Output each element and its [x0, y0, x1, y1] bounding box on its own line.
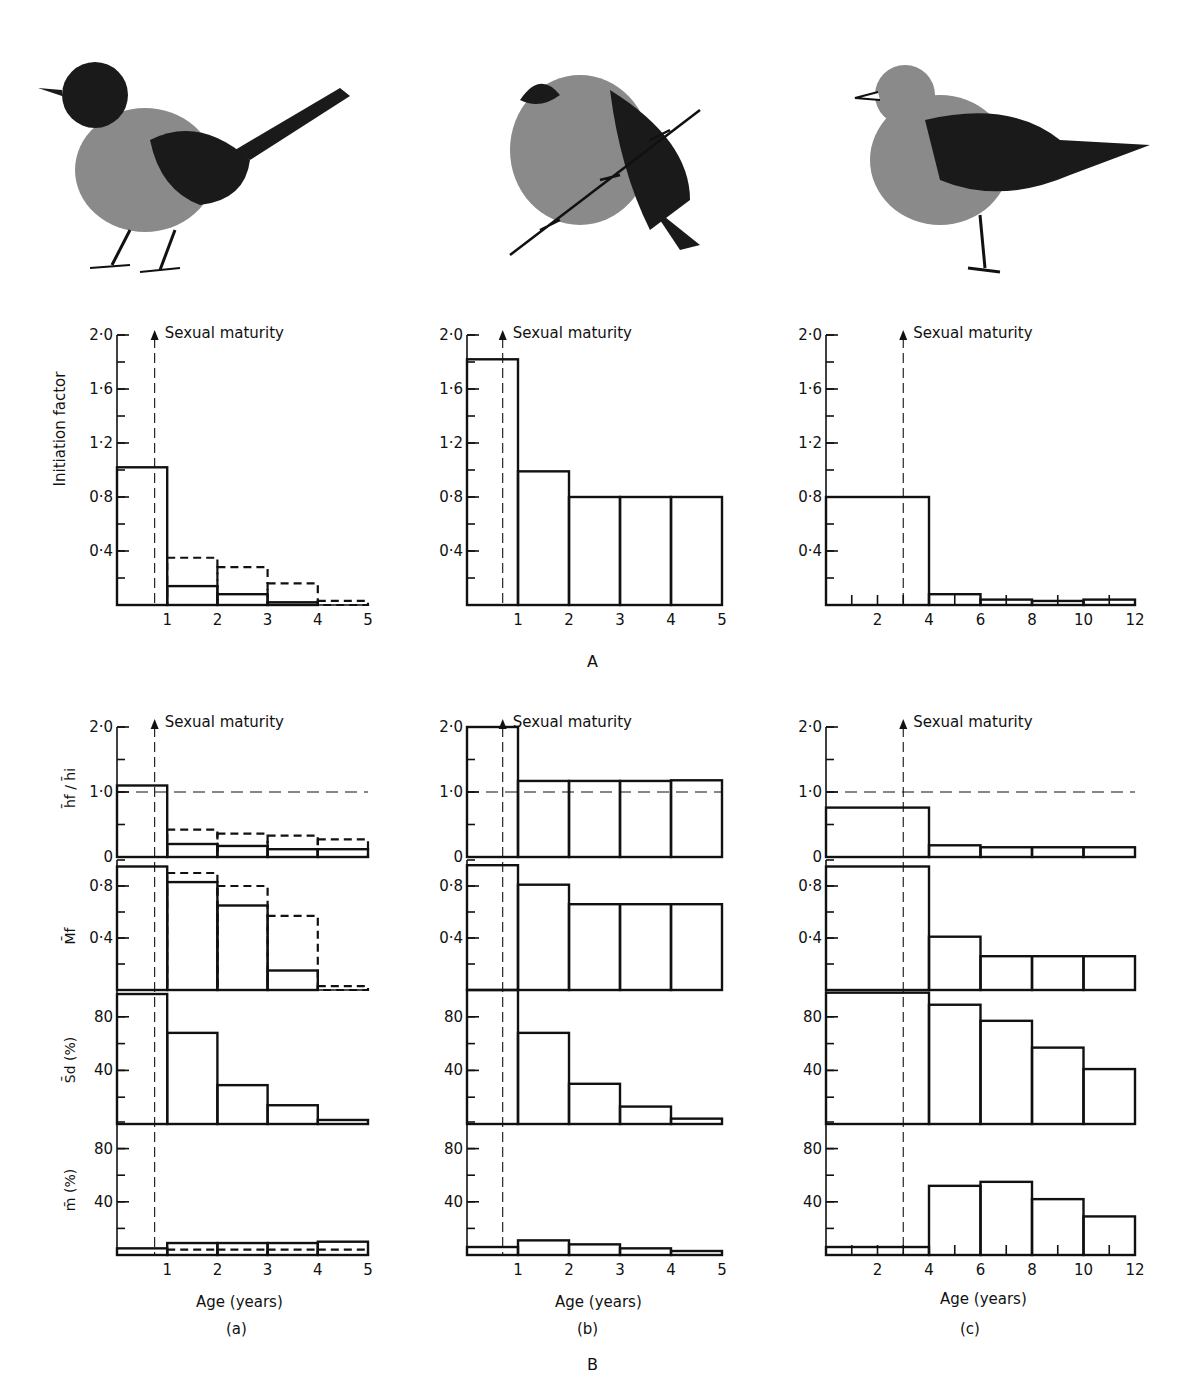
- x-tick-label: 1: [513, 611, 523, 629]
- y-tick-label: 40: [803, 1061, 822, 1079]
- y-tick-label: 0·4: [89, 929, 113, 947]
- x-axis-title-a: Age (years): [196, 1293, 283, 1311]
- histogram-bar: [117, 994, 167, 1124]
- y-tick-label: 0·4: [439, 542, 463, 560]
- x-tick-label: 3: [615, 1261, 625, 1279]
- y-tick-label: 1·0: [89, 783, 113, 801]
- bird-illustration-a: [38, 62, 350, 272]
- histogram-bar: [1032, 847, 1084, 857]
- histogram-bar: [826, 497, 929, 605]
- y-tick-label: 0·8: [89, 877, 113, 895]
- histogram-bar: [318, 849, 368, 857]
- x-axis-title-c: Age (years): [940, 1290, 1027, 1308]
- y-axis-title-h: h̄f / h̄i: [62, 748, 78, 828]
- y-axis-title-initiation: Initiation factor: [51, 359, 69, 499]
- sexual-maturity-label: Sexual maturity: [913, 713, 1032, 731]
- y-tick-label: 2·0: [439, 718, 463, 736]
- y-tick-label: 40: [94, 1193, 113, 1211]
- arrow-up-icon: [151, 719, 159, 729]
- x-tick-label: 4: [924, 611, 934, 629]
- x-tick-label: 4: [313, 611, 323, 629]
- chart-B-c-M: 0·40·8: [798, 860, 1135, 990]
- y-tick-label: 1·2: [439, 434, 463, 452]
- y-tick-label: 80: [444, 1008, 463, 1026]
- histogram-bar: [518, 1240, 569, 1255]
- x-tick-label: 2: [213, 611, 223, 629]
- x-tick-label: 8: [1027, 1261, 1037, 1279]
- histogram-bar: [268, 849, 318, 857]
- histogram-bar: [217, 886, 267, 990]
- y-tick-label: 1·0: [439, 783, 463, 801]
- histogram-bar: [1084, 847, 1136, 857]
- histogram-bar: [671, 1251, 722, 1255]
- histogram-bar: [981, 1182, 1033, 1255]
- bird-illustration-c: [855, 65, 1150, 272]
- y-tick-label: 0: [812, 848, 822, 866]
- histogram-bar: [929, 1005, 981, 1124]
- histogram-bar: [518, 885, 569, 990]
- sexual-maturity-label: Sexual maturity: [165, 324, 284, 342]
- histogram-bar: [981, 956, 1033, 990]
- x-tick-label: 1: [162, 611, 172, 629]
- x-tick-label: 2: [564, 611, 574, 629]
- histogram-bar: [167, 844, 217, 857]
- histogram-bar: [217, 567, 267, 605]
- y-tick-label: 80: [803, 1140, 822, 1158]
- histogram-bar: [518, 1033, 569, 1124]
- histogram-bar: [569, 1244, 620, 1255]
- histogram-bar: [167, 882, 217, 990]
- x-tick-label: 1: [513, 1261, 523, 1279]
- column-label-a: (a): [226, 1320, 247, 1338]
- y-tick-label: 0·8: [798, 877, 822, 895]
- histogram-bar: [1084, 1069, 1136, 1124]
- chart-A-c: 0·40·81·21·62·024681012Sexual maturity: [798, 324, 1144, 629]
- y-tick-label: 0: [103, 848, 113, 866]
- x-tick-label: 2: [213, 1261, 223, 1279]
- histogram-bar: [671, 1119, 722, 1124]
- y-tick-label: 0·4: [798, 542, 822, 560]
- histogram-bar: [117, 1248, 167, 1255]
- histogram-bar: [117, 467, 167, 605]
- histogram-bar: [981, 847, 1033, 857]
- histogram-bar: [981, 1021, 1033, 1124]
- x-tick-label: 5: [363, 611, 373, 629]
- sexual-maturity-label: Sexual maturity: [513, 713, 632, 731]
- histogram-bar: [620, 1107, 671, 1124]
- y-tick-label: 40: [803, 1193, 822, 1211]
- y-tick-label: 2·0: [89, 718, 113, 736]
- histogram-bar: [569, 497, 620, 605]
- histogram-bar: [518, 471, 569, 605]
- charts-layer: 0·40·81·21·62·012345Sexual maturity0·40·…: [89, 324, 1144, 1279]
- y-tick-label: 1·2: [89, 434, 113, 452]
- y-tick-label: 0·8: [439, 488, 463, 506]
- histogram-bar: [620, 1248, 671, 1255]
- y-tick-label: 0·4: [798, 929, 822, 947]
- histogram-bar: [467, 990, 518, 1124]
- histogram-bar: [268, 916, 318, 990]
- chart-A-a: 0·40·81·21·62·012345Sexual maturity: [89, 324, 373, 629]
- arrow-up-icon: [499, 719, 507, 729]
- y-tick-label: 80: [803, 1008, 822, 1026]
- histogram-bar: [671, 904, 722, 990]
- chart-A-b: 0·40·81·21·62·012345Sexual maturity: [439, 324, 727, 629]
- y-tick-label: 1·6: [798, 380, 822, 398]
- histogram-bar: [826, 867, 929, 991]
- histogram-bar: [467, 865, 518, 990]
- histogram-bar: [1032, 956, 1084, 990]
- y-tick-label: 0·8: [798, 488, 822, 506]
- histogram-bar: [217, 1085, 267, 1124]
- histogram-bar: [671, 497, 722, 605]
- x-tick-label: 5: [363, 1261, 373, 1279]
- x-tick-label: 12: [1125, 1261, 1144, 1279]
- y-tick-label: 0·4: [439, 929, 463, 947]
- histogram-bar: [117, 786, 167, 858]
- histogram-bar: [826, 808, 929, 857]
- chart-B-b-Sd: 4080: [444, 990, 722, 1124]
- column-label-c: (c): [960, 1320, 980, 1338]
- y-tick-label: 0·8: [439, 877, 463, 895]
- figure-canvas: 0·40·81·21·62·012345Sexual maturity0·40·…: [0, 0, 1190, 1387]
- histogram-bar: [117, 867, 167, 991]
- x-tick-label: 5: [717, 611, 727, 629]
- chart-B-b-M: 0·40·8: [439, 860, 722, 990]
- histogram-bar: [268, 836, 318, 857]
